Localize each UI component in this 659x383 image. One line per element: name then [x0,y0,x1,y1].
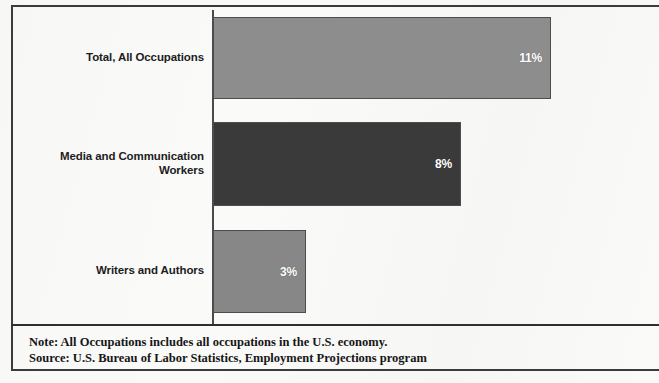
plot-footnote-divider [11,324,659,326]
bar-data-label: 11% [519,51,542,65]
footnote-source: Source: U.S. Bureau of Labor Statistics,… [29,350,644,366]
bar-row: Writers and Authors 3% [13,230,659,323]
bar-media-and-communication-workers: 8% [213,122,461,206]
bar-row: Total, All Occupations 11% [13,17,659,109]
figure-container: Total, All Occupations 11% Media and Com… [0,0,659,383]
footnote-note: Note: All Occupations includes all occup… [29,334,644,350]
bar-category-label: Media and Communication Workers [14,149,204,177]
bar-category-label-line1: Total, All Occupations [14,50,204,64]
bar-writers-and-authors: 3% [213,230,306,313]
bar-category-label-line1: Media and Communication [14,149,204,163]
bar-total-all-occupations: 11% [213,17,551,99]
bar-data-label: 8% [435,157,452,171]
bar-category-label-line2: Workers [14,163,204,177]
bar-category-label: Writers and Authors [14,263,204,277]
bar-category-label: Total, All Occupations [14,50,204,64]
bar-category-label-line1: Writers and Authors [14,263,204,277]
bar-data-label: 3% [280,265,297,279]
footnotes: Note: All Occupations includes all occup… [29,334,644,366]
figure-bottom-rule [11,369,659,371]
chart-plot-area: Total, All Occupations 11% Media and Com… [13,7,659,324]
bar-row: Media and Communication Workers 8% [13,122,659,216]
